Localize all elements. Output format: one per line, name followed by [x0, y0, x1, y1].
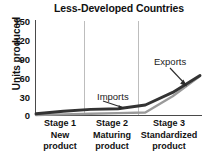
imports-label: Imports	[97, 91, 129, 102]
stage-3-sub-2: product	[136, 141, 202, 153]
x-axis-stage-2: Stage 2 Maturing product	[84, 118, 140, 153]
stage-1-sub-1: New	[32, 130, 88, 142]
x-axis-stage-1: Stage 1 New product	[32, 118, 88, 153]
stage-2-sub-2: product	[84, 141, 140, 153]
exports-label: Exports	[154, 56, 186, 67]
chart-container: Less-Developed Countries Units produced …	[0, 0, 202, 161]
x-axis-stage-3: Stage 3 Standardized product	[136, 118, 202, 153]
exports-annotation-arrow	[170, 68, 187, 87]
stage-1-sub-2: product	[32, 141, 88, 153]
stage-2-name: Stage 2	[84, 118, 140, 130]
stage-3-name: Stage 3	[136, 118, 202, 130]
stage-3-sub-1: Standardized	[136, 130, 202, 142]
stage-1-name: Stage 1	[32, 118, 88, 130]
stage-2-sub-1: Maturing	[84, 130, 140, 142]
